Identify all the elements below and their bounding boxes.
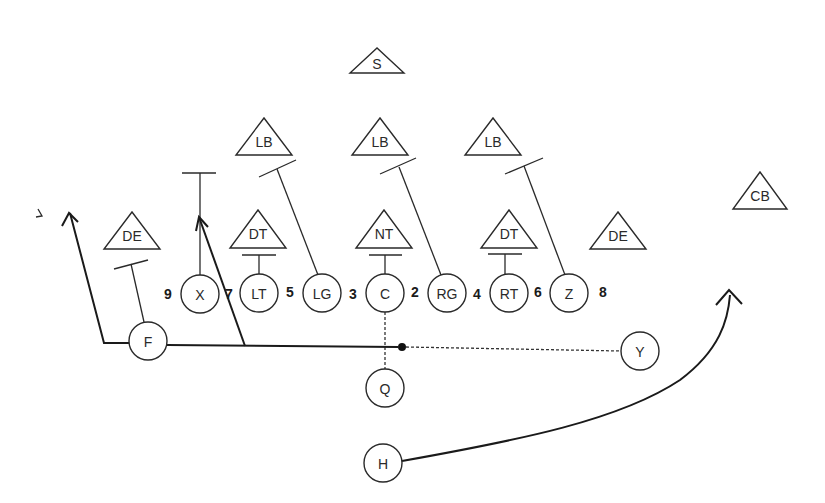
- player-h: H: [364, 444, 402, 482]
- football-marker: [398, 343, 406, 351]
- player-f: F: [129, 322, 167, 360]
- block-c-on-nt: [369, 255, 402, 274]
- route-motion-line: [167, 345, 398, 347]
- player-label: LT: [251, 286, 267, 302]
- gap-number: 8: [599, 284, 607, 300]
- player-c: C: [366, 274, 404, 312]
- defender-de1: DE: [104, 212, 160, 249]
- player-label: RG: [437, 286, 458, 302]
- player-label: Q: [380, 381, 391, 397]
- player-rt: RT: [490, 274, 528, 312]
- defender-label: S: [372, 56, 381, 72]
- player-y: Y: [621, 332, 659, 370]
- defender-label: LB: [371, 134, 388, 150]
- defender-dt2: DT: [481, 210, 537, 248]
- defender-label: DT: [500, 226, 519, 242]
- defender-s: S: [350, 48, 404, 73]
- defender-cb: CB: [733, 172, 787, 209]
- player-x: X: [181, 275, 219, 313]
- player-q: Q: [366, 369, 404, 407]
- gap-number: 2: [411, 284, 419, 300]
- defender-label: NT: [375, 226, 394, 242]
- defender-nt: NT: [356, 210, 412, 248]
- player-label: F: [144, 334, 153, 350]
- player-label: C: [380, 286, 390, 302]
- gap-number: 7: [225, 286, 233, 302]
- gap-number: 3: [349, 286, 357, 302]
- block-lt-on-dt: [242, 255, 276, 274]
- player-z: Z: [550, 274, 588, 312]
- block-lg-on-lb: [259, 160, 318, 275]
- defender-dt1: DT: [230, 210, 286, 248]
- pitch-line-to-y: [406, 347, 621, 351]
- defender-lb1: LB: [236, 118, 292, 155]
- player-lg: LG: [303, 274, 341, 312]
- offense-layer: XLTLGCRGRTZFQYH: [129, 274, 659, 482]
- defender-de2: DE: [590, 212, 646, 249]
- defender-lb2: LB: [352, 118, 408, 155]
- defender-lb3: LB: [465, 118, 521, 155]
- block-rt-on-dt: [488, 254, 522, 274]
- player-label: RT: [500, 286, 519, 302]
- gap-number: 9: [164, 286, 172, 302]
- player-rg: RG: [428, 274, 466, 312]
- player-label: X: [195, 287, 205, 303]
- player-lt: LT: [240, 274, 278, 312]
- gap-number: 6: [534, 284, 542, 300]
- player-label: H: [378, 456, 388, 472]
- defender-label: CB: [750, 188, 769, 204]
- route-h-wheel: [402, 290, 742, 461]
- gap-number: 5: [286, 284, 294, 300]
- player-label: Z: [565, 286, 574, 302]
- player-label: LG: [313, 286, 332, 302]
- defender-label: DE: [122, 228, 141, 244]
- gap-number: 4: [473, 286, 481, 302]
- defender-label: LB: [484, 134, 501, 150]
- defender-label: DE: [608, 228, 627, 244]
- player-label: Y: [635, 344, 645, 360]
- stray-mark: [36, 209, 42, 217]
- block-x-stalk: [182, 173, 216, 275]
- play-diagram: SLBLBLBCBDEDTNTDTDE XLTLGCRGRTZFQYH 9753…: [0, 0, 825, 503]
- defender-label: LB: [255, 134, 272, 150]
- block-f-on-de: [114, 260, 148, 322]
- defender-label: DT: [249, 226, 268, 242]
- defense-layer: SLBLBLBCBDEDTNTDTDE: [104, 48, 787, 249]
